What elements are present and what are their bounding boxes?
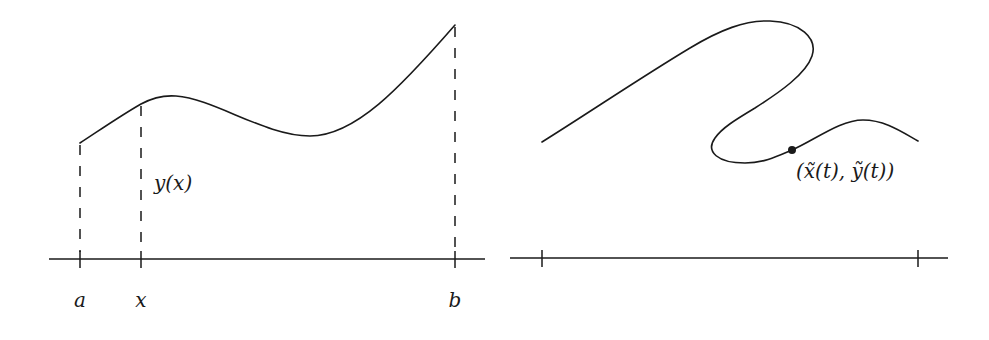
diagram-canvas: y(x) a x b (x̃(t), ỹ(t)): [0, 0, 989, 340]
right-panel: (x̃(t), ỹ(t)): [510, 21, 948, 267]
axis-label-x: x: [135, 288, 146, 312]
function-curve: [80, 25, 455, 143]
curve-point-dot: [788, 146, 796, 154]
axis-label-b: b: [449, 288, 462, 312]
parametric-point-label: (x̃(t), ỹ(t)): [796, 159, 894, 183]
curve-label-y-of-x: y(x): [153, 171, 192, 195]
axis-label-a: a: [74, 288, 86, 312]
parametric-curve: [542, 21, 918, 163]
left-panel: y(x) a x b: [49, 25, 485, 312]
